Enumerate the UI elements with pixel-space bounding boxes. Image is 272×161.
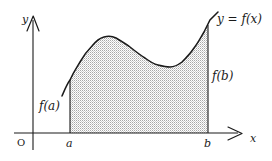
annotation-f-of-a: f(a) xyxy=(39,100,60,112)
annotation-f-of-b: f(b) xyxy=(212,70,234,82)
x-tick-label-b: b xyxy=(204,138,211,149)
annotation-curve-equation: y = f(x) xyxy=(217,13,262,25)
x-axis-label: x xyxy=(250,133,256,144)
x-tick-label-a: a xyxy=(66,138,73,149)
y-axis-label: y xyxy=(22,14,28,25)
shaded-area-region xyxy=(70,25,208,133)
figure-container: y x O a b f(a) f(b) y = f(x) xyxy=(0,0,272,161)
origin-label: O xyxy=(17,138,25,148)
